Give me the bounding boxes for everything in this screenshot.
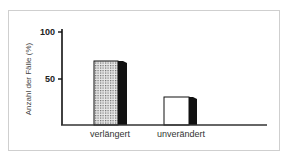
y-tick-label-100: 100 [40, 27, 55, 37]
x-label-unveraendert: unverändert [157, 129, 206, 139]
bar-unveraendert [164, 97, 197, 125]
y-tick-label-50: 50 [45, 74, 55, 84]
x-label-verlaengert: verlängert [90, 129, 131, 139]
bar-verlaengert [94, 61, 127, 125]
y-axis-title: Anzahl der Fälle (%) [24, 42, 33, 115]
bar-chart: 100 50 Anzahl der Fälle (%) verlängert u… [0, 0, 291, 155]
